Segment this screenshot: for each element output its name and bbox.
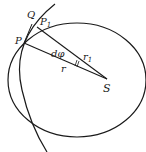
orbit-ellipse [8, 23, 146, 137]
label-r: r [61, 63, 67, 74]
orbit-diagram: Q P1 P dφ r1 r S [0, 0, 146, 152]
label-p: P [14, 35, 22, 46]
label-dphi: dφ [51, 48, 64, 59]
label-p1: P1 [39, 16, 51, 29]
label-s: S [103, 82, 111, 95]
label-q: Q [27, 9, 35, 20]
